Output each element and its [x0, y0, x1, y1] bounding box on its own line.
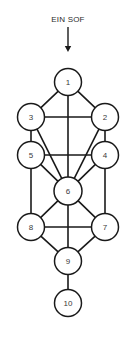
edge-6-8	[40, 200, 58, 218]
tree-of-life-svg: 12345678910EIN SOF	[0, 0, 137, 337]
edge-1-2	[77, 91, 95, 108]
node-label-9: 9	[66, 257, 71, 266]
node-label-3: 3	[29, 113, 34, 122]
ein-sof-arrow	[65, 27, 71, 52]
edge-6-7	[78, 200, 96, 218]
edge-8-9	[41, 236, 59, 252]
arrow-head-icon	[65, 46, 71, 52]
node-label-6: 6	[66, 187, 71, 196]
node-label-10: 10	[64, 299, 73, 308]
node-label-4: 4	[103, 151, 108, 160]
node-label-2: 2	[103, 113, 108, 122]
node-label-7: 7	[103, 223, 108, 232]
edge-7-9	[78, 236, 96, 252]
node-label-8: 8	[29, 223, 34, 232]
edge-1-3	[40, 91, 58, 108]
tree-of-life-diagram: 12345678910EIN SOF	[0, 0, 137, 337]
ein-sof-label: EIN SOF	[51, 15, 84, 24]
node-label-1: 1	[66, 78, 71, 87]
node-label-5: 5	[29, 151, 34, 160]
